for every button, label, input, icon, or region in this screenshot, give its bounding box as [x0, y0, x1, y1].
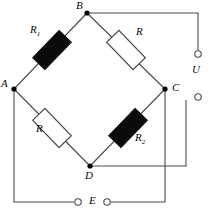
external-wires — [14, 13, 198, 202]
terminal-u-bottom[interactable] — [195, 94, 201, 100]
resistor-label-r2-text: R — [135, 131, 142, 143]
node-D-dot — [87, 163, 92, 168]
resistor-label-r1-text: R — [30, 23, 37, 35]
circuit-diagram-canvas: B A C D R1 R R R2 U E — [0, 0, 209, 215]
node-C-dot — [162, 86, 167, 91]
node-B-dot — [84, 10, 89, 15]
resistor-label-r-bottom-left-text: R — [36, 122, 43, 134]
terminal-label-e: E — [89, 195, 96, 206]
resistor-label-r2: R2 — [135, 132, 145, 146]
resistor-label-r2-sub: 2 — [142, 138, 146, 146]
terminal-e-right[interactable] — [104, 199, 110, 205]
resistor-label-r-top-right: R — [136, 26, 143, 37]
node-label-B: B — [76, 0, 83, 11]
terminal-e-left[interactable] — [75, 199, 81, 205]
resistor-label-r-top-right-text: R — [136, 25, 143, 37]
terminal-u-top[interactable] — [195, 51, 201, 57]
terminal-label-u: U — [192, 64, 200, 75]
node-label-D: D — [85, 170, 93, 181]
node-label-C: C — [172, 82, 179, 93]
wire-A-to-E-left — [14, 89, 74, 202]
resistor-label-r-bottom-left: R — [36, 123, 43, 134]
resistors — [33, 30, 148, 147]
node-A-dot — [11, 86, 16, 91]
resistor-label-r1-sub: 1 — [37, 30, 41, 38]
node-label-A: A — [1, 78, 8, 89]
resistor-label-r1: R1 — [30, 24, 40, 38]
